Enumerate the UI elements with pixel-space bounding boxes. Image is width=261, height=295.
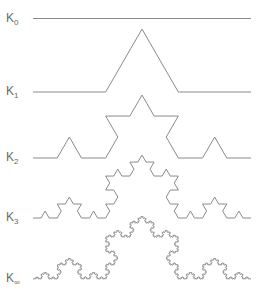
label-k3: K3	[6, 211, 18, 226]
koch-curve-∞	[33, 216, 251, 279]
koch-diagram	[0, 0, 261, 295]
label-k0: K0	[6, 12, 18, 27]
label-k-infinity: K∞	[6, 272, 20, 287]
koch-curve-1	[33, 29, 251, 92]
label-k1: K1	[6, 85, 18, 100]
koch-curve-2	[33, 95, 251, 158]
label-k2: K2	[6, 151, 18, 166]
koch-curve-3	[33, 155, 251, 218]
